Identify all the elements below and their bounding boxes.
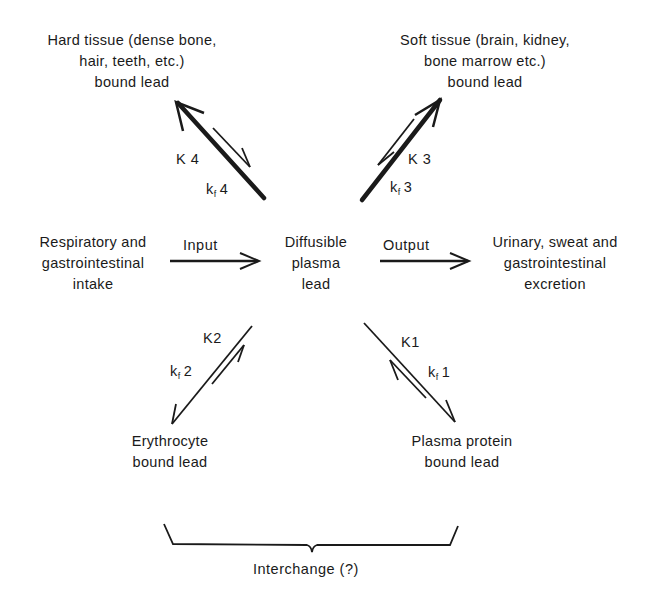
node-excretion-line: gastrointestinal (470, 253, 640, 274)
node-intake-line: gastrointestinal (22, 253, 164, 274)
arrow-k1-return (390, 360, 426, 398)
label-kf4: kf4 (206, 180, 228, 203)
node-hard-tissue-line: hair, teeth, etc.) (22, 51, 242, 72)
node-plasma-line: lead (266, 274, 366, 295)
node-plasma-protein: Plasma protein bound lead (392, 431, 532, 473)
node-hard-tissue-line: Hard tissue (dense bone, (22, 30, 242, 51)
node-diffusible-plasma-lead: Diffusible plasma lead (266, 232, 366, 295)
node-hard-tissue-line: bound lead (22, 72, 242, 93)
node-erythrocyte-line: bound lead (110, 452, 230, 473)
kf1-k: k (428, 364, 436, 380)
node-plasma-protein-line: bound lead (392, 452, 532, 473)
arrow-output (380, 253, 469, 269)
node-plasma-line: plasma (266, 253, 366, 274)
label-k1: K1 (401, 333, 420, 351)
node-soft-tissue-line: Soft tissue (brain, kidney, (370, 30, 600, 51)
label-interchange: Interchange (?) (253, 560, 359, 578)
label-kf2: kf2 (170, 362, 192, 385)
label-k2: K2 (203, 329, 222, 347)
kf2-num: 2 (184, 363, 193, 379)
node-erythrocyte: Erythrocyte bound lead (110, 431, 230, 473)
interchange-brace (164, 524, 458, 552)
node-soft-tissue: Soft tissue (brain, kidney, bone marrow … (370, 30, 600, 93)
node-soft-tissue-line: bone marrow etc.) (370, 51, 600, 72)
kf3-k: k (390, 179, 398, 195)
kf4-sub: f (214, 189, 217, 199)
kf4-num: 4 (220, 181, 229, 197)
label-kf1: kf1 (428, 363, 450, 386)
node-erythrocyte-line: Erythrocyte (110, 431, 230, 452)
label-input: Input (183, 236, 218, 254)
kf1-sub: f (436, 372, 439, 382)
node-intake-line: intake (22, 274, 164, 295)
arrow-k2-return (212, 345, 244, 384)
label-k3: K 3 (408, 150, 431, 168)
kf1-num: 1 (442, 364, 451, 380)
node-intake-line: Respiratory and (22, 232, 164, 253)
kf3-sub: f (398, 187, 401, 197)
node-hard-tissue: Hard tissue (dense bone, hair, teeth, et… (22, 30, 242, 93)
arrow-input (170, 253, 259, 269)
node-plasma-protein-line: Plasma protein (392, 431, 532, 452)
node-excretion-line: excretion (470, 274, 640, 295)
node-excretion: Urinary, sweat and gastrointestinal excr… (470, 232, 640, 295)
label-kf3: kf3 (390, 178, 412, 201)
kf2-k: k (170, 363, 178, 379)
kf4-k: k (206, 181, 214, 197)
kf2-sub: f (178, 371, 181, 381)
label-output: Output (383, 236, 430, 254)
node-soft-tissue-line: bound lead (370, 72, 600, 93)
label-k4: K 4 (176, 150, 199, 168)
kf3-num: 3 (404, 179, 413, 195)
node-plasma-line: Diffusible (266, 232, 366, 253)
node-excretion-line: Urinary, sweat and (470, 232, 640, 253)
node-intake: Respiratory and gastrointestinal intake (22, 232, 164, 295)
